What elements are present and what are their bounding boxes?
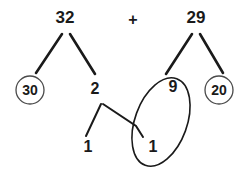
node-30: 30 [22, 82, 38, 98]
node-one-right: 1 [149, 138, 158, 155]
branch-2-to-one-left [86, 104, 101, 136]
branch-32-to-30 [36, 34, 62, 73]
branch-29-to-20 [200, 34, 223, 73]
number-bond-diagram: 32 + 29 30 2 9 20 1 1 [0, 0, 250, 170]
grouping-ellipse-icon [121, 70, 201, 170]
node-20: 20 [211, 82, 227, 98]
addend-right-29: 29 [187, 8, 206, 27]
node-9: 9 [169, 78, 178, 95]
node-one-left: 1 [84, 138, 93, 155]
branch-29-to-9 [166, 34, 192, 74]
branch-2-to-one-right [103, 104, 143, 137]
branch-32-to-2 [70, 34, 95, 74]
plus-operator-icon: + [128, 11, 137, 28]
diagram-canvas: 32 + 29 30 2 9 20 1 1 [0, 0, 250, 170]
node-2: 2 [91, 80, 100, 97]
addend-left-32: 32 [56, 8, 75, 27]
